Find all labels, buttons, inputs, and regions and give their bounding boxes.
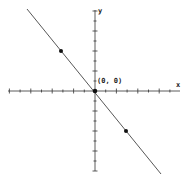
point-origin [93,89,98,94]
x-axis-label: x [176,82,180,89]
origin-label: (0, 0) [97,78,122,85]
y-axis-label: y [98,8,102,15]
point-lower-right [124,129,128,133]
point-upper-left [59,49,63,53]
coordinate-plane [0,0,191,180]
